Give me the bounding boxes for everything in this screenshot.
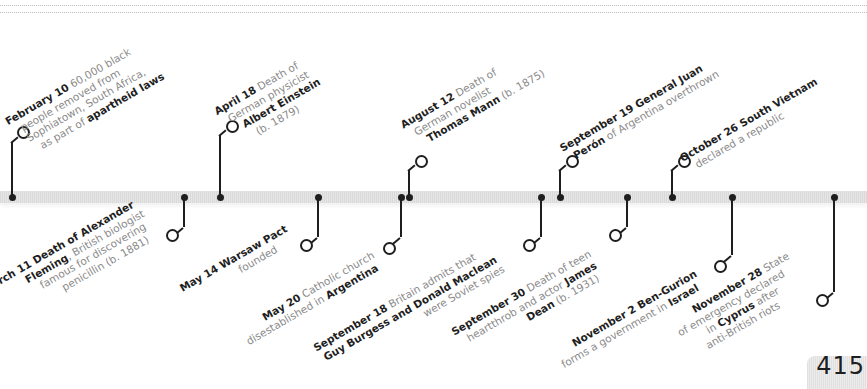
timeline-dot [406,194,413,201]
event-label: September 18 Britain admits that Guy Bur… [311,241,506,376]
event-marker-ring-icon [415,155,428,168]
event-label: February 10 60,000 black people removed … [3,37,166,160]
event-label: March 11 Death of Alexander Fleming, Bri… [0,196,159,328]
timeline-dot [669,194,676,201]
timeline-dot [9,194,16,201]
timeline-dot [557,194,564,201]
top-divider [0,5,867,6]
top-divider [0,12,867,13]
event-label: April 18 Death of German physicist Alber… [212,54,329,150]
event-marker-ring-icon [816,294,829,307]
event-marker-ring-icon [714,260,727,273]
event-marker-ring-icon [523,239,536,252]
event-label: November 28 State of emergency declared … [655,250,810,368]
event-marker-ring-icon [166,229,179,242]
event-marker-ring-icon [300,239,313,252]
event-label: August 12 Death of German novelist Thoma… [398,45,547,152]
event-marker-ring-icon [609,229,622,242]
event-marker-ring-icon [383,242,396,255]
event-label: May 14 Warsaw Pact founded [178,222,296,305]
page-number: 415 [816,352,865,380]
timeline-dot [217,194,224,201]
